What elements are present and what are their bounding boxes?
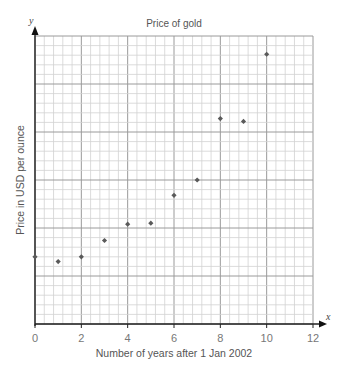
x-tick-label: 8	[217, 332, 223, 344]
x-tick-label: 2	[78, 332, 84, 344]
data-point	[195, 177, 200, 182]
data-point	[125, 222, 130, 227]
data-point	[241, 119, 246, 124]
y-axis-arrow-icon	[32, 26, 39, 35]
x-axis-label: Number of years after 1 Jan 2002	[96, 347, 253, 359]
x-tick-label: 6	[171, 332, 177, 344]
x-tick-label: 0	[32, 332, 38, 344]
x-tick-label: 12	[307, 332, 319, 344]
x-tick-label: 4	[125, 332, 131, 344]
data-point	[32, 254, 37, 259]
grid	[35, 36, 313, 324]
data-point	[218, 116, 223, 121]
scatter-chart: 024681012 Price of gold Number of years …	[0, 0, 343, 371]
x-tick-label: 10	[261, 332, 273, 344]
data-point	[264, 52, 269, 57]
y-axis-letter: y	[28, 15, 34, 26]
data-point	[79, 254, 84, 259]
data-point	[102, 238, 107, 243]
data-point	[171, 193, 176, 198]
data-point	[56, 259, 61, 264]
data-point	[148, 221, 153, 226]
x-tick-labels: 024681012	[32, 332, 319, 344]
chart-title: Price of gold	[146, 18, 202, 29]
y-axis-label: Price in USD per ounce	[14, 125, 26, 235]
axes	[32, 26, 328, 328]
x-axis-letter: x	[325, 311, 331, 322]
